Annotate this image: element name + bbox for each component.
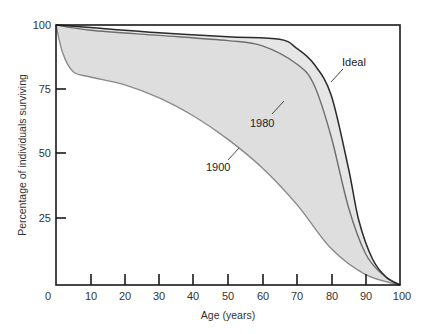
ideal-label: Ideal xyxy=(342,56,366,68)
x-tick-70: 70 xyxy=(291,290,303,302)
x-tick-80: 80 xyxy=(326,290,338,302)
ideal-leader-line xyxy=(331,69,343,82)
x-tick-10: 10 xyxy=(85,290,97,302)
1900-label: 1900 xyxy=(206,161,230,173)
1900-leader-line xyxy=(228,148,239,160)
y-tick-25: 25 xyxy=(39,212,51,224)
y-tick-50: 50 xyxy=(39,147,51,159)
survivorship-chart: 100 75 50 25 0 10 20 30 40 50 60 70 80 9… xyxy=(0,0,428,334)
x-tick-20: 20 xyxy=(119,290,131,302)
x-tick-0: 0 xyxy=(45,290,51,302)
y-axis-title: Percentage of individuals surviving xyxy=(16,74,28,236)
x-tick-40: 40 xyxy=(187,290,199,302)
y-tick-75: 75 xyxy=(39,83,51,95)
1980-label: 1980 xyxy=(250,117,274,129)
x-axis-title: Age (years) xyxy=(201,309,255,321)
x-axis-ticks xyxy=(91,274,366,285)
y-axis-ticks xyxy=(56,89,66,218)
x-tick-30: 30 xyxy=(153,290,165,302)
y-tick-100: 100 xyxy=(33,19,51,31)
x-tick-100: 100 xyxy=(393,290,411,302)
x-tick-50: 50 xyxy=(222,290,234,302)
x-tick-90: 90 xyxy=(360,290,372,302)
x-tick-60: 60 xyxy=(257,290,269,302)
